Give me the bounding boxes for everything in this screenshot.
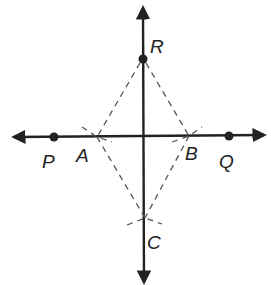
line-rc [143,8,144,282]
label-c: C [147,232,161,253]
arc-mark-a [82,127,112,142]
dashed-rb [146,63,189,136]
dashed-ac [97,137,145,218]
label-q: Q [219,151,234,172]
label-a: A [75,145,89,166]
dashed-bc [145,136,189,218]
label-b: B [185,143,198,164]
point-r [139,55,148,64]
construction-lines [82,63,202,225]
point-p [50,133,59,142]
dashed-ra [97,63,140,137]
label-p: P [42,151,55,172]
perpendicular-bisector-diagram: R P A B Q C [0,0,271,285]
point-q [225,132,234,141]
label-r: R [150,36,164,57]
